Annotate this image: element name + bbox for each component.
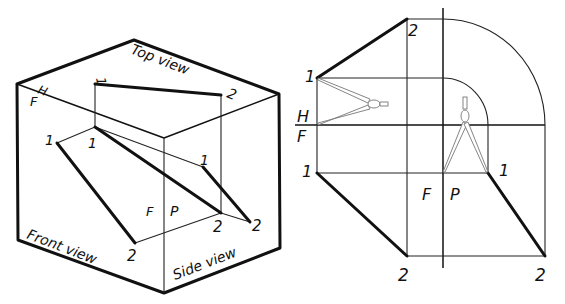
line-side-view — [203, 167, 250, 222]
fold-label-f: F — [30, 94, 38, 109]
glass-box: Top view Front view Side view H F F P 1 … — [17, 40, 280, 293]
point-label-top-2: 2 — [225, 85, 239, 103]
compass-icon-vertical — [443, 97, 488, 172]
orthographic-projection: 2 1 H F 1 F P 1 2 2 — [295, 8, 546, 285]
line-true-space — [95, 127, 221, 213]
point-label-side-1: 1 — [499, 161, 509, 180]
projection-diagram: Top view Front view Side view H F F P 1 … — [0, 0, 565, 304]
fold-label-p: P — [170, 203, 179, 219]
point-label-side-2: 2 — [252, 217, 262, 235]
point-label-inner-1: 1 — [88, 135, 97, 151]
line-top-view — [317, 19, 407, 78]
point-label-inner-2: 2 — [213, 218, 223, 236]
transfer-arc-outer — [443, 19, 545, 125]
point-label-front-2: 2 — [398, 265, 409, 285]
point-label-front-2: 2 — [127, 247, 137, 265]
fold-label-h: H — [297, 107, 309, 126]
fold-label-f-bottom: F — [422, 185, 432, 204]
point-label-top-2: 2 — [408, 21, 418, 40]
compass-icon-horizontal — [318, 78, 388, 125]
point-label-side-1: 1 — [200, 152, 209, 168]
fold-label-f: F — [297, 127, 307, 146]
line-side-view — [488, 173, 545, 256]
point-label-front-1: 1 — [302, 162, 312, 181]
cube-outline — [17, 40, 280, 293]
fold-label-p: P — [450, 185, 460, 204]
line-front-view — [317, 173, 407, 256]
top-view-label: Top view — [129, 41, 192, 78]
fold-label-f-side: F — [146, 204, 154, 219]
line-top-view — [95, 84, 221, 95]
fold-label-h: H — [36, 83, 49, 99]
point-label-side-2: 2 — [535, 265, 546, 285]
point-label-front-1: 1 — [45, 132, 54, 148]
line-front-view — [57, 143, 135, 243]
point-label-top-1: 1 — [305, 67, 315, 86]
